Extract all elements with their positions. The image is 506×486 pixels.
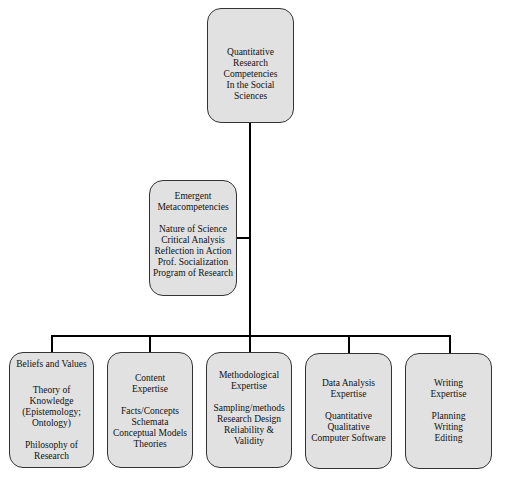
child-item: Planning [432,411,466,422]
root-title-line: Competencies [224,69,278,80]
data-analysis-expertise-node: Data Analysis Expertise Quantitative Qua… [305,353,392,469]
child-item: Research [34,451,69,462]
meta-connector-line [236,237,250,239]
child-item: Writing [434,422,463,433]
child-item: Schemata [132,417,169,428]
beliefs-values-node: Beliefs and Values Theory of Knowledge (… [9,352,94,468]
root-title-line: Research [233,58,268,69]
meta-item: Critical Analysis [161,235,225,246]
child-title-line: Expertise [331,389,367,400]
meta-item: Prof. Socialization [158,257,229,268]
child-item: Ontology) [32,418,71,429]
root-node: Quantitative Research Competencies In th… [207,8,294,123]
metacompetencies-node: Emergent Metacompetencies Nature of Scie… [149,180,237,296]
child-item: Qualitative [327,422,369,433]
child-drop-line-1 [51,335,53,353]
child-title-line: Beliefs and Values [16,359,87,370]
child-drop-line-2 [149,335,151,353]
child-title-line: Methodological [219,370,279,381]
child-item: Computer Software [311,433,386,444]
child-item: (Epistemology; [22,407,81,418]
root-title-line: Quantitative [227,47,274,58]
root-title-line: In the Social [226,80,274,91]
child-item: Sampling/methods [213,403,284,414]
child-item: Validity [234,436,264,447]
methodological-expertise-node: Methodological Expertise Sampling/method… [206,352,292,468]
child-title-line: Expertise [132,384,168,395]
child-drop-line-3 [249,335,251,353]
content-expertise-node: Content Expertise Facts/Concepts Schemat… [107,352,193,468]
child-drop-line-5 [449,335,451,353]
meta-item: Program of Research [153,268,233,279]
child-item: Editing [435,433,463,444]
child-item: Theory of [33,385,71,396]
child-item: Theories [133,439,166,450]
meta-item: Reflection in Action [154,246,231,257]
child-title-line: Expertise [231,381,267,392]
child-item: Conceptual Models [113,428,187,439]
writing-expertise-node: Writing Expertise Planning Writing Editi… [405,353,492,469]
child-item: Knowledge [30,396,74,407]
meta-title-line: Metacompetencies [157,202,228,213]
child-item: Philosophy of [25,440,78,451]
children-bus-line [51,335,451,337]
child-title-line: Writing [434,378,463,389]
child-item: Research Design [217,414,281,425]
child-item: Facts/Concepts [121,406,179,417]
child-title-line: Data Analysis [322,378,375,389]
child-title-line: Expertise [431,389,467,400]
child-item: Reliability & [224,425,274,436]
meta-item: Nature of Science [159,224,227,235]
root-trunk-line [249,122,251,337]
root-title-line: Sciences [234,91,267,102]
meta-title-line: Emergent [175,191,212,202]
child-item: Quantitative [325,411,372,422]
child-title-line: Content [135,373,165,384]
child-drop-line-4 [348,335,350,353]
